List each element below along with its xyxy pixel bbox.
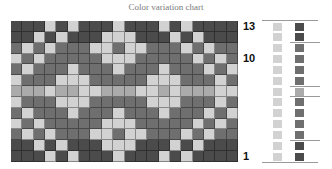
grid-cell — [45, 21, 56, 32]
grid-cell — [125, 129, 136, 140]
grid-cell — [68, 54, 79, 65]
legend-swatch-light — [273, 88, 282, 96]
grid-cell — [22, 64, 33, 75]
divider-line — [290, 96, 320, 97]
grid-cell — [170, 151, 181, 162]
grid-cell — [147, 75, 158, 86]
grid-cell — [125, 32, 136, 43]
grid-cell — [22, 119, 33, 130]
row-label: 10 — [243, 53, 255, 64]
grid-cell — [102, 86, 113, 97]
grid-cell — [68, 108, 79, 119]
grid-cell — [34, 32, 45, 43]
grid-cell — [204, 32, 215, 43]
grid-cell — [181, 86, 192, 97]
legend-swatch-light — [273, 153, 282, 161]
legend-swatch-dark — [295, 44, 304, 52]
legend-swatch-light — [273, 66, 282, 74]
grid-cell — [193, 54, 204, 65]
grid-cell — [204, 64, 215, 75]
grid-cell — [34, 64, 45, 75]
grid-cell — [136, 119, 147, 130]
grid-cell — [102, 129, 113, 140]
grid-cell — [68, 140, 79, 151]
grid-cell — [102, 43, 113, 54]
legend-swatch-dark — [295, 131, 304, 139]
grid-cell — [181, 21, 192, 32]
legend-swatch-light — [273, 120, 282, 128]
grid-cell — [193, 97, 204, 108]
grid-cell — [204, 140, 215, 151]
grid-cell — [90, 119, 101, 130]
grid-cell — [113, 108, 124, 119]
grid-cell — [113, 119, 124, 130]
grid-cell — [204, 43, 215, 54]
legend-swatch-light — [273, 55, 282, 63]
grid-cell — [34, 151, 45, 162]
grid-cell — [45, 86, 56, 97]
grid-cell — [215, 140, 226, 151]
grid-cell — [102, 54, 113, 65]
grid-cell — [193, 43, 204, 54]
grid-cell — [79, 75, 90, 86]
grid-cell — [11, 119, 22, 130]
grid-cell — [136, 129, 147, 140]
grid-cell — [159, 43, 170, 54]
grid-cell — [90, 97, 101, 108]
grid-cell — [125, 108, 136, 119]
legend-swatch-dark — [295, 142, 304, 150]
grid-cell — [136, 151, 147, 162]
grid-cell — [22, 140, 33, 151]
grid-cell — [56, 129, 67, 140]
grid-cell — [34, 129, 45, 140]
grid-cell — [68, 97, 79, 108]
legend-swatch-light — [273, 98, 282, 106]
grid-cell — [136, 64, 147, 75]
grid-cell — [181, 75, 192, 86]
grid-cell — [193, 129, 204, 140]
grid-cell — [22, 32, 33, 43]
grid-cell — [45, 54, 56, 65]
grid-cell — [102, 32, 113, 43]
grid-cell — [113, 43, 124, 54]
grid-cell — [79, 129, 90, 140]
grid-cell — [204, 54, 215, 65]
grid-cell — [159, 75, 170, 86]
grid-cell — [136, 21, 147, 32]
grid-cell — [147, 108, 158, 119]
grid-cell — [181, 151, 192, 162]
grid-cell — [68, 151, 79, 162]
grid-cell — [45, 75, 56, 86]
chart-title: Color variation chart — [0, 2, 332, 12]
grid-cell — [215, 75, 226, 86]
divider-line — [262, 162, 318, 163]
grid-cell — [170, 97, 181, 108]
grid-cell — [11, 43, 22, 54]
grid-cell — [90, 140, 101, 151]
grid-cell — [113, 32, 124, 43]
grid-cell — [215, 97, 226, 108]
grid-cell — [11, 32, 22, 43]
grid-cell — [90, 108, 101, 119]
grid-cell — [227, 108, 238, 119]
grid-cell — [147, 32, 158, 43]
grid-cell — [170, 129, 181, 140]
grid-cell — [215, 32, 226, 43]
grid-cell — [170, 64, 181, 75]
grid-cell — [34, 119, 45, 130]
divider-line — [262, 20, 318, 21]
grid-cell — [136, 43, 147, 54]
grid-cell — [45, 129, 56, 140]
grid-cell — [90, 151, 101, 162]
grid-cell — [11, 54, 22, 65]
grid-cell — [34, 54, 45, 65]
grid-cell — [193, 86, 204, 97]
color-grid — [11, 21, 238, 162]
grid-cell — [125, 140, 136, 151]
grid-cell — [193, 108, 204, 119]
grid-cell — [147, 151, 158, 162]
grid-cell — [125, 119, 136, 130]
grid-cell — [56, 86, 67, 97]
grid-cell — [227, 86, 238, 97]
grid-cell — [90, 54, 101, 65]
